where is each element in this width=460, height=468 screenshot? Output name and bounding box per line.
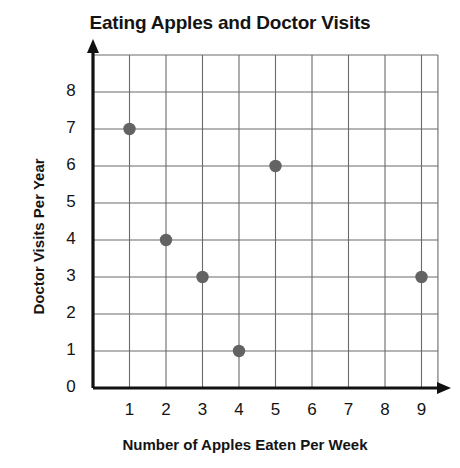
x-tick-label: 4 xyxy=(227,400,251,420)
data-point xyxy=(160,234,172,246)
y-tick-label: 2 xyxy=(59,303,83,323)
x-tick-label: 1 xyxy=(118,400,142,420)
y-tick-label: 8 xyxy=(59,81,83,101)
y-tick-label: 4 xyxy=(59,229,83,249)
y-tick-label: 6 xyxy=(59,155,83,175)
data-point xyxy=(415,271,427,283)
data-point xyxy=(269,160,281,172)
data-point xyxy=(233,345,245,357)
grid-lines xyxy=(93,55,438,388)
x-tick-label: 7 xyxy=(337,400,361,420)
x-tick-label: 8 xyxy=(373,400,397,420)
x-tick-label: 6 xyxy=(300,400,324,420)
y-tick-label: 1 xyxy=(59,340,83,360)
x-tick-label: 2 xyxy=(154,400,178,420)
y-tick-label: 7 xyxy=(59,118,83,138)
data-point xyxy=(123,123,135,135)
x-tick-label: 5 xyxy=(264,400,288,420)
data-point xyxy=(196,271,208,283)
x-tick-label: 3 xyxy=(191,400,215,420)
x-tick-label: 9 xyxy=(410,400,434,420)
y-tick-label: 5 xyxy=(59,192,83,212)
y-tick-label: 0 xyxy=(59,377,83,397)
scatter-chart: Eating Apples and Doctor Visits Doctor V… xyxy=(0,0,460,468)
y-tick-label: 3 xyxy=(59,266,83,286)
